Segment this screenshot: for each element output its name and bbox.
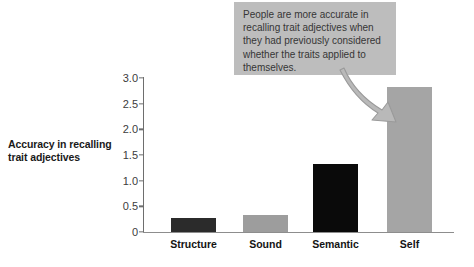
annotation-text: People are more accurate in recalling tr… xyxy=(243,8,388,74)
x-axis-label-structure: Structure xyxy=(170,238,217,250)
y-axis-tick-mark xyxy=(139,103,143,104)
y-axis-tick-mark xyxy=(139,231,143,232)
y-axis-tick-mark xyxy=(139,206,143,207)
bar-sound xyxy=(243,215,288,232)
y-axis-tick-mark xyxy=(139,77,143,78)
y-axis-label: Accuracy in recalling trait adjectives xyxy=(8,138,126,163)
annotation-callout: People are more accurate in recalling tr… xyxy=(234,2,396,75)
y-axis-label-line-2: trait adjectives xyxy=(8,151,126,164)
bar-chart-figure: Accuracy in recalling trait adjectives 0… xyxy=(0,0,474,267)
bar-structure xyxy=(171,218,216,232)
plot-area: 00.51.01.52.02.53.0 xyxy=(143,78,453,232)
y-axis-label-line-1: Accuracy in recalling xyxy=(8,138,126,151)
bar-self xyxy=(387,87,432,232)
x-axis-label-sound: Sound xyxy=(249,238,282,250)
y-axis-tick-mark xyxy=(139,180,143,181)
x-axis-label-semantic: Semantic xyxy=(312,238,359,250)
y-axis-tick-mark xyxy=(139,129,143,130)
bar-semantic xyxy=(313,164,358,232)
y-axis-tick-mark xyxy=(139,154,143,155)
x-axis-label-self: Self xyxy=(400,238,419,250)
